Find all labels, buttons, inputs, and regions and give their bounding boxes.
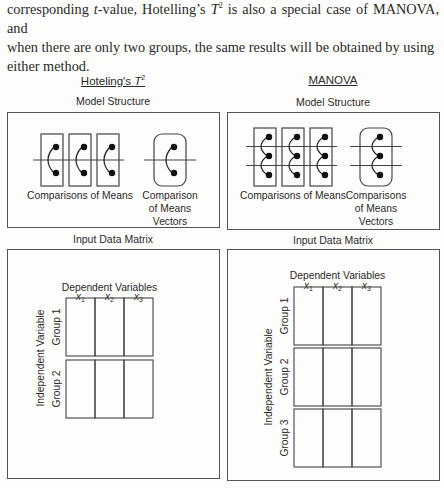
manova-input-matrix-label: Input Data Matrix — [227, 234, 439, 246]
manova-group-label: Group 1 — [279, 297, 290, 334]
mean-dot — [80, 169, 86, 175]
hotelling-vector-label-line: Vectors — [152, 216, 186, 227]
manova-data-matrix: Dependent Variablesx1x2x3Group 1Group 2G… — [227, 249, 440, 481]
matrix-cell — [66, 298, 95, 356]
mean-dot — [52, 143, 58, 149]
manova-model-diagram: Comparisons of MeansComparisonsof MeansV… — [227, 112, 440, 230]
hotelling-group-label: Group 1 — [51, 308, 62, 345]
matrix-cell — [294, 409, 323, 467]
mean-dot — [321, 171, 327, 177]
manova-mean-comparison-3 — [310, 128, 332, 186]
matrix-cell — [66, 360, 95, 418]
mean-dot — [293, 171, 299, 177]
mean-box — [310, 128, 332, 186]
mean-dot — [52, 169, 58, 175]
matrix-cell — [352, 409, 381, 467]
manova-variable-header: x1 — [303, 280, 313, 292]
matrix-cell — [124, 360, 153, 418]
manova-group-block — [294, 348, 381, 406]
mean-dot — [321, 152, 327, 158]
manova-variable-header: x2 — [332, 280, 342, 292]
manova-model-structure-panel: Comparisons of MeansComparisonsof MeansV… — [227, 112, 440, 230]
mean-dot — [376, 171, 382, 177]
mean-dot — [321, 133, 327, 139]
mean-dot — [108, 143, 114, 149]
mean-box — [254, 128, 276, 186]
matrix-cell — [294, 287, 323, 345]
matrix-cell — [323, 409, 352, 467]
matrix-cell — [352, 287, 381, 345]
manova-mean-comparison-2 — [282, 128, 304, 186]
manova-vector-label-line: Vectors — [358, 216, 392, 227]
matrix-cell — [323, 348, 352, 406]
manova-variable-header: x3 — [361, 280, 371, 292]
intro-paragraph: corresponding t-value, Hotelling’s T2 is… — [7, 0, 439, 76]
intro-line-3: either method. — [7, 57, 439, 76]
mean-dot — [265, 171, 271, 177]
manova-model-structure-label: Model Structure — [227, 96, 439, 108]
hotelling-title: Hoteling's T2 — [7, 74, 219, 87]
hotelling-group-block — [66, 360, 153, 418]
manova-input-matrix-panel: Dependent Variablesx1x2x3Group 1Group 2G… — [227, 249, 440, 481]
mean-dot — [108, 169, 114, 175]
hotelling-input-matrix-label: Input Data Matrix — [7, 233, 219, 245]
manova-vector-label-line: Comparisons — [345, 190, 406, 201]
hotelling-data-matrix: Dependent Variablesx1x2x3Group 1Group 2I… — [7, 249, 220, 479]
manova-vector-comparison — [360, 128, 392, 186]
manova-group-label: Group 2 — [279, 358, 290, 395]
mean-dot — [170, 169, 176, 175]
vector-box — [360, 128, 392, 186]
hotelling-model-structure-panel: Comparisons of MeansComparisonof MeansVe… — [7, 112, 220, 228]
mean-dot — [376, 152, 382, 158]
matrix-cell — [124, 298, 153, 356]
manova-comparisons-of-means-label: Comparisons of Means — [240, 190, 346, 201]
mean-dot — [293, 133, 299, 139]
mean-box — [282, 128, 304, 186]
manova-group-label: Group 3 — [279, 419, 290, 456]
intro-line-2: when there are only two groups, the same… — [7, 38, 439, 57]
hotelling-vector-label-line: of Means — [148, 203, 190, 214]
hotelling-vector-label-line: Comparison — [142, 190, 198, 201]
mean-dot — [80, 143, 86, 149]
manova-group-block — [294, 287, 381, 345]
manova-group-block — [294, 409, 381, 467]
matrix-cell — [95, 360, 124, 418]
matrix-cell — [294, 348, 323, 406]
manova-mean-comparison-1 — [254, 128, 276, 186]
hotelling-group-block — [66, 298, 153, 356]
hotelling-model-diagram: Comparisons of MeansComparisonof MeansVe… — [7, 112, 220, 228]
intro-line-1: corresponding t-value, Hotelling’s T2 is… — [7, 0, 439, 38]
hotelling-group-label: Group 2 — [51, 370, 62, 407]
mean-dot — [265, 152, 271, 158]
manova-independent-variable-label: Independent Variable — [263, 328, 274, 425]
manova-vector-label-line: of Means — [354, 203, 396, 214]
hotelling-input-matrix-panel: Dependent Variablesx1x2x3Group 1Group 2I… — [7, 249, 220, 479]
hotelling-model-structure-label: Model Structure — [7, 95, 219, 107]
manova-title: MANOVA — [227, 74, 439, 86]
hotelling-comparisons-of-means-label: Comparisons of Means — [27, 190, 133, 201]
mean-dot — [265, 133, 271, 139]
hotelling-independent-variable-label: Independent Variable — [35, 309, 46, 406]
matrix-cell — [95, 298, 124, 356]
matrix-cell — [352, 348, 381, 406]
mean-dot — [376, 133, 382, 139]
mean-dot — [293, 152, 299, 158]
matrix-cell — [323, 287, 352, 345]
mean-dot — [170, 143, 176, 149]
